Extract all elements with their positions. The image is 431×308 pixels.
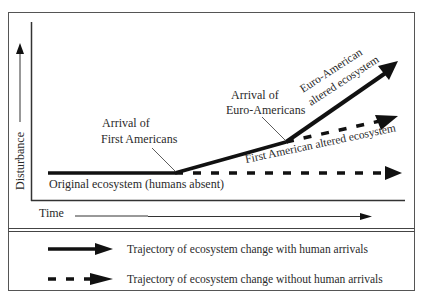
solid-arrow-icon — [95, 243, 113, 255]
legend-item-solid: Trajectory of ecosystem change with huma… — [48, 243, 369, 256]
first-american-altered-label: First American altered ecosystem — [244, 121, 397, 166]
first-americans-pointer — [152, 148, 176, 172]
euro-americans-label-line2: Euro-Americans — [226, 103, 306, 117]
y-axis-label: Disturbance — [13, 132, 27, 190]
arrow-right-icon — [360, 213, 372, 220]
dashed-arrowhead-icon — [385, 166, 402, 180]
euro-americans-label-line1: Arrival of — [231, 88, 279, 102]
x-axis-label: Time — [39, 206, 64, 220]
x-axis-label-group: Time — [39, 206, 372, 220]
legend-dashed-label: Trajectory of ecosystem change without h… — [127, 273, 383, 286]
dashed-arrow-icon — [90, 273, 113, 285]
legend-item-dashed: Trajectory of ecosystem change without h… — [48, 273, 383, 286]
first-americans-label-line1: Arrival of — [102, 116, 150, 130]
first-americans-label-line2: First Americans — [101, 132, 178, 146]
euro-americans-pointer — [262, 117, 286, 141]
original-ecosystem-label: Original ecosystem (humans absent) — [49, 177, 224, 191]
legend: Trajectory of ecosystem change with huma… — [48, 243, 383, 286]
y-axis-label-group: Disturbance — [13, 43, 27, 190]
arrow-up-icon — [16, 43, 24, 54]
legend-solid-label: Trajectory of ecosystem change with huma… — [127, 243, 369, 256]
ecosystem-disturbance-diagram: Disturbance Time Arrival of First Americ… — [0, 0, 431, 308]
